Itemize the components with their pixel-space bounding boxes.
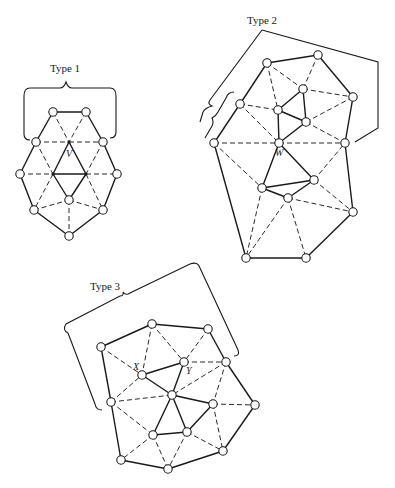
dashed-edge bbox=[213, 404, 255, 405]
vertex-I bbox=[341, 139, 349, 147]
dashed-edge bbox=[111, 395, 172, 402]
dashed-edge bbox=[303, 55, 318, 89]
solid-edge bbox=[278, 110, 279, 143]
solid-edge bbox=[86, 112, 103, 142]
dashed-edge bbox=[240, 104, 278, 110]
type3-group: Type 3 XY bbox=[64, 263, 259, 473]
vertex-P6 bbox=[209, 400, 217, 408]
vertex-G bbox=[302, 118, 310, 126]
vertex-X bbox=[138, 371, 146, 379]
type2-title: Type 2 bbox=[247, 14, 277, 26]
dashed-edge bbox=[153, 435, 168, 469]
diagram-canvas: Type 1 V Type 2 W Type 3 XY bbox=[0, 0, 395, 488]
vertex-P5 bbox=[107, 398, 115, 406]
dashed-edge bbox=[69, 200, 103, 210]
solid-edge bbox=[20, 142, 36, 174]
dashed-edge bbox=[86, 142, 103, 174]
solid-edge bbox=[214, 143, 246, 258]
dashed-edge bbox=[314, 143, 345, 180]
vertex-l bbox=[65, 232, 73, 240]
vertex-k bbox=[99, 206, 107, 214]
solid-edge bbox=[223, 405, 255, 451]
solid-edge bbox=[36, 112, 53, 142]
solid-edge bbox=[345, 143, 353, 212]
solid-edge bbox=[306, 212, 353, 258]
solid-edge bbox=[121, 460, 168, 469]
solid-edge bbox=[303, 89, 306, 122]
vertex-P3 bbox=[204, 325, 212, 333]
solid-edge bbox=[20, 174, 34, 210]
vertex-F bbox=[274, 106, 282, 114]
dashed-edge bbox=[306, 97, 353, 122]
type3-bracket-arm bbox=[68, 333, 102, 410]
type1-bracket-arm bbox=[24, 96, 30, 140]
dashed-edge bbox=[184, 329, 208, 362]
vertex-label-Y: Y bbox=[186, 365, 193, 376]
dashed-edge bbox=[267, 63, 303, 89]
solid-edge bbox=[103, 174, 117, 210]
solid-edge bbox=[240, 63, 267, 104]
dashed-edge bbox=[121, 435, 153, 460]
dashed-edge bbox=[314, 180, 353, 212]
vertex-A bbox=[263, 59, 271, 67]
solid-edge bbox=[214, 104, 240, 143]
vertex-P9 bbox=[183, 428, 191, 436]
dashed-edge bbox=[69, 112, 86, 142]
vertex-j bbox=[30, 206, 38, 214]
vertex-H bbox=[210, 139, 218, 147]
vertex-O bbox=[302, 254, 310, 262]
type1-edges: V bbox=[16, 108, 121, 240]
solid-edge bbox=[152, 324, 208, 329]
vertex-P12 bbox=[219, 447, 227, 455]
vertex-h bbox=[113, 170, 121, 178]
solid-edge bbox=[267, 55, 318, 63]
solid-edge bbox=[279, 122, 306, 143]
solid-edge bbox=[101, 324, 152, 347]
vertex-g bbox=[84, 172, 87, 175]
type1-title: Type 1 bbox=[50, 62, 80, 74]
type2-edges: W bbox=[210, 51, 357, 262]
solid-edge bbox=[101, 347, 111, 402]
vertex-P4 bbox=[222, 358, 230, 366]
dashed-edge bbox=[288, 198, 353, 212]
dashed-edge bbox=[288, 198, 306, 258]
vertex-P10 bbox=[117, 456, 125, 464]
type3-bracket bbox=[64, 263, 238, 356]
vertex-J bbox=[258, 184, 266, 192]
solid-edge bbox=[262, 180, 314, 188]
dashed-edge bbox=[240, 104, 279, 143]
vertex-e bbox=[16, 170, 24, 178]
dashed-edge bbox=[53, 112, 69, 142]
vertex-C bbox=[168, 391, 176, 399]
solid-edge bbox=[318, 55, 353, 97]
vertex-M bbox=[349, 208, 357, 216]
dashed-edge bbox=[152, 324, 184, 362]
solid-edge bbox=[153, 432, 187, 435]
type1-bracket bbox=[24, 82, 116, 138]
vertex-b bbox=[82, 108, 90, 116]
vertex-f bbox=[51, 172, 54, 175]
vertex-P7 bbox=[251, 401, 259, 409]
type3-title: Type 3 bbox=[90, 280, 121, 292]
solid-edge bbox=[34, 210, 69, 236]
solid-edge bbox=[172, 395, 187, 432]
type2-group: Type 2 W bbox=[200, 14, 378, 262]
type1-group: Type 1 V bbox=[16, 62, 121, 240]
dashed-edge bbox=[111, 375, 142, 402]
solid-edge bbox=[69, 210, 103, 236]
solid-edge bbox=[153, 395, 172, 435]
dashed-edge bbox=[213, 404, 223, 451]
type2-bracket-right bbox=[262, 30, 378, 142]
solid-edge bbox=[103, 142, 117, 174]
vertex-W bbox=[275, 139, 283, 147]
solid-edge bbox=[172, 395, 213, 404]
vertex-P8 bbox=[149, 431, 157, 439]
dashed-edge bbox=[34, 200, 69, 210]
dashed-edge bbox=[172, 362, 226, 395]
vertex-V bbox=[67, 140, 70, 143]
dashed-edge bbox=[111, 402, 153, 435]
solid-edge bbox=[142, 362, 184, 375]
solid-edge bbox=[279, 143, 314, 180]
dashed-edge bbox=[34, 174, 53, 210]
type2-bracket-left bbox=[200, 30, 262, 122]
